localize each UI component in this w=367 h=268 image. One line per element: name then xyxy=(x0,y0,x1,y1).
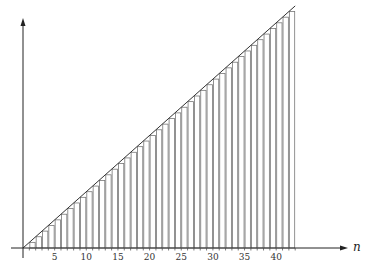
bar xyxy=(207,85,212,248)
bar xyxy=(80,197,85,248)
bar xyxy=(258,40,263,248)
bar xyxy=(55,220,60,248)
bar xyxy=(68,209,73,248)
bar xyxy=(270,28,275,248)
bar xyxy=(99,180,104,248)
x-tick-label: 5 xyxy=(52,252,58,262)
bar xyxy=(220,73,225,248)
bar xyxy=(283,17,288,248)
bar xyxy=(182,107,187,248)
bar xyxy=(74,203,79,248)
bar xyxy=(112,169,117,248)
bar xyxy=(131,152,136,248)
bar xyxy=(156,130,161,248)
bar xyxy=(213,79,218,248)
diagonal-line xyxy=(23,6,295,248)
chart-svg: 510152025303540 n xyxy=(0,0,367,268)
bar xyxy=(137,147,142,248)
bars-group xyxy=(30,12,295,248)
x-tick-label: 10 xyxy=(81,252,93,262)
chart-container: 510152025303540 n xyxy=(0,0,367,268)
y-axis-arrow-icon xyxy=(21,18,26,26)
bar xyxy=(61,214,66,248)
bar xyxy=(194,96,199,248)
x-tick-label: 25 xyxy=(176,252,188,262)
bar xyxy=(144,141,149,248)
bar xyxy=(232,62,237,248)
bar xyxy=(188,102,193,248)
x-tick-label: 35 xyxy=(239,252,251,262)
bar xyxy=(87,192,92,248)
x-tick-label: 15 xyxy=(112,252,124,262)
x-tick-label: 30 xyxy=(207,252,219,262)
bar xyxy=(49,225,54,248)
x-tick-label: 40 xyxy=(270,252,282,262)
bar xyxy=(289,12,294,248)
x-axis-arrow-icon xyxy=(340,246,348,251)
bar xyxy=(36,237,41,248)
bar xyxy=(239,57,244,248)
bar xyxy=(125,158,130,248)
bar xyxy=(42,231,47,248)
bar xyxy=(30,242,35,248)
x-tick-label: 20 xyxy=(144,252,156,262)
bar xyxy=(175,113,180,248)
bar xyxy=(245,51,250,248)
bar xyxy=(163,124,168,248)
bar xyxy=(277,23,282,248)
bar xyxy=(169,119,174,248)
bar xyxy=(201,90,206,248)
x-axis-label: n xyxy=(353,240,361,254)
bar xyxy=(264,34,269,248)
bar xyxy=(106,175,111,248)
bar xyxy=(150,135,155,248)
x-ticks: 510152025303540 xyxy=(29,248,295,262)
bar xyxy=(118,164,123,248)
bar xyxy=(226,68,231,248)
bar xyxy=(93,186,98,248)
bar xyxy=(251,45,256,248)
